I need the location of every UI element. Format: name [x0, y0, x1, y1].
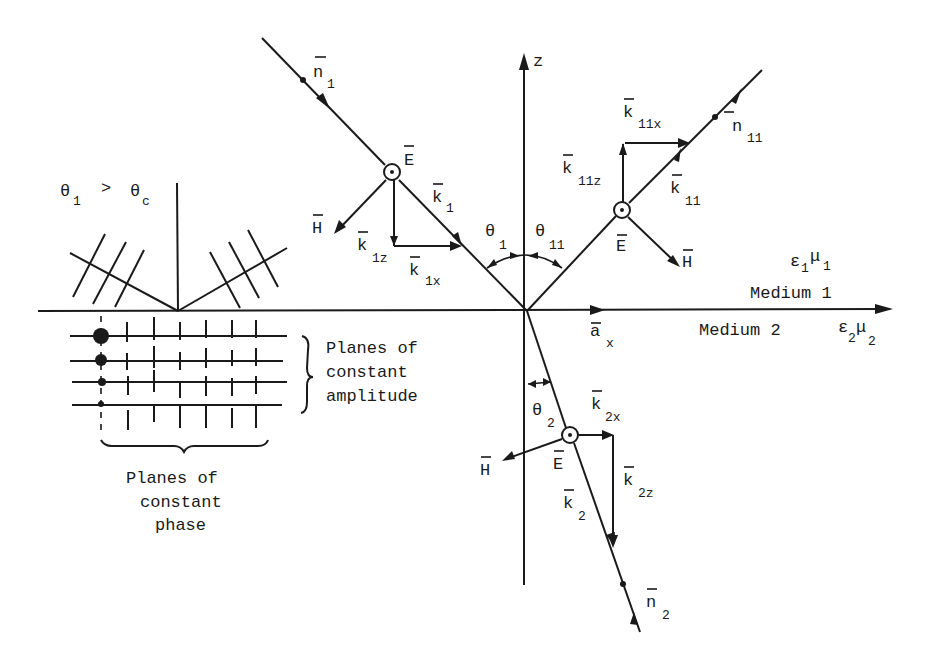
reflected-labels: n 11 E H k 11 k 11z k 11x — [562, 99, 763, 272]
svg-text:1: 1 — [446, 201, 454, 216]
svg-text:E: E — [553, 455, 563, 474]
svg-text:n: n — [646, 593, 656, 612]
media-labels: ε 1 μ 1 Medium 1 Medium 2 ε 2 μ 2 — [699, 247, 876, 349]
svg-text:2: 2 — [868, 334, 876, 349]
svg-text:ε: ε — [790, 252, 800, 271]
z-axis-label: z — [533, 52, 543, 71]
svg-text:k: k — [409, 261, 419, 280]
svg-text:1: 1 — [499, 238, 507, 253]
svg-text:H: H — [312, 219, 322, 238]
planes-constant-amplitude-label: Planes of — [326, 339, 418, 358]
svg-text:k: k — [432, 188, 442, 207]
svg-text:μ: μ — [856, 318, 866, 337]
svg-text:1: 1 — [73, 194, 81, 209]
svg-text:c: c — [142, 194, 150, 209]
svg-text:H: H — [480, 461, 490, 480]
svg-text:ε: ε — [838, 318, 848, 337]
ax-unit-vector: a x — [590, 305, 614, 351]
svg-text:2x: 2x — [605, 410, 621, 425]
svg-text:k: k — [357, 236, 367, 255]
inset-evanescent-grid — [70, 316, 313, 452]
svg-text:k: k — [591, 395, 601, 414]
svg-text:2: 2 — [547, 416, 555, 431]
svg-text:constant: constant — [326, 363, 408, 382]
inset-labels: Planes of constant amplitude Planes of c… — [126, 339, 418, 535]
svg-text:θ: θ — [532, 401, 542, 420]
svg-text:11: 11 — [549, 238, 565, 253]
incident-ray — [262, 38, 527, 311]
svg-text:11: 11 — [747, 131, 763, 146]
svg-text:H: H — [682, 253, 692, 272]
svg-text:1: 1 — [801, 261, 809, 276]
svg-text:11z: 11z — [578, 174, 601, 189]
svg-text:θ: θ — [60, 182, 70, 201]
planes-constant-phase-label: Planes of — [126, 469, 218, 488]
svg-text:n: n — [732, 117, 742, 136]
svg-text:n: n — [313, 63, 323, 82]
transmitted-labels: θ 2 k 2x E H k 2z k 2 n 2 — [480, 391, 670, 623]
svg-text:1: 1 — [823, 259, 831, 274]
svg-text:11: 11 — [685, 194, 701, 209]
svg-text:constant: constant — [140, 493, 222, 512]
svg-text:1: 1 — [327, 77, 335, 92]
svg-text:2: 2 — [848, 331, 856, 346]
svg-text:μ: μ — [810, 247, 820, 266]
incident-labels: n 1 E H k 1 k 1z k 1x — [312, 57, 454, 289]
svg-text:k: k — [670, 179, 680, 198]
svg-text:2z: 2z — [638, 486, 654, 501]
z-axis: z — [519, 52, 543, 585]
reflected-ray — [527, 70, 762, 311]
medium-2-label: Medium 2 — [699, 321, 781, 340]
ax-label: a — [590, 322, 600, 341]
svg-text:2: 2 — [578, 509, 586, 524]
svg-text:2: 2 — [662, 608, 670, 623]
svg-text:>: > — [101, 179, 111, 198]
svg-text:k: k — [623, 471, 633, 490]
svg-text:θ: θ — [485, 222, 495, 241]
svg-text:E: E — [404, 151, 414, 170]
medium-1-label: Medium 1 — [750, 284, 832, 303]
svg-text:phase: phase — [155, 516, 206, 535]
svg-text:1z: 1z — [372, 251, 388, 266]
inset-wavefronts: θ 1 > θ c — [60, 179, 287, 311]
svg-text:k: k — [563, 494, 573, 513]
reflected-direction-arrow — [731, 88, 742, 104]
svg-text:11x: 11x — [638, 117, 662, 132]
svg-text:θ: θ — [130, 182, 140, 201]
svg-text:amplitude: amplitude — [326, 387, 418, 406]
svg-text:k: k — [562, 159, 572, 178]
svg-text:k: k — [623, 103, 633, 122]
svg-text:1x: 1x — [425, 274, 441, 289]
transmitted-ray — [502, 311, 640, 632]
svg-text:θ: θ — [535, 222, 545, 241]
svg-text:E: E — [616, 237, 626, 256]
diagram-canvas: z a x n 1 E H k 1 — [0, 0, 937, 669]
svg-text:x: x — [606, 336, 614, 351]
